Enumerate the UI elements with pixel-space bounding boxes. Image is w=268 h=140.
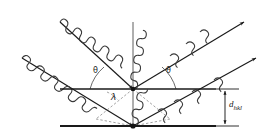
incident-ray-upper [60,19,133,89]
reflected-ray-upper-line [133,22,244,89]
reflected-wave-lower-b [158,78,223,123]
reflected-ray-upper [131,22,244,89]
reflected-wave-upper-b [170,30,209,68]
incident-ray-lower-line [22,58,133,126]
incident-ray-lower [22,56,133,126]
diagram-canvas [0,0,268,140]
theta-label-left: θ [93,67,98,75]
theta-label-right: θ [166,67,171,75]
d-spacing-label: dhkl [229,100,242,112]
reflected-ray-lower [132,58,256,126]
lambda-label: λ [111,93,116,102]
reflected-ray-lower-line [133,58,256,126]
reflected-wave-lower [132,90,148,127]
incident-ray-upper-line [60,22,133,89]
bragg-diffraction-figure: θ θ λ dhkl [0,0,268,140]
incident-wave-lower [22,56,97,112]
incident-wave-upper [60,19,123,68]
scatter-point-lower [130,123,135,128]
scatter-point-upper [131,87,136,92]
d-spacing-subscript: hkl [234,104,243,112]
